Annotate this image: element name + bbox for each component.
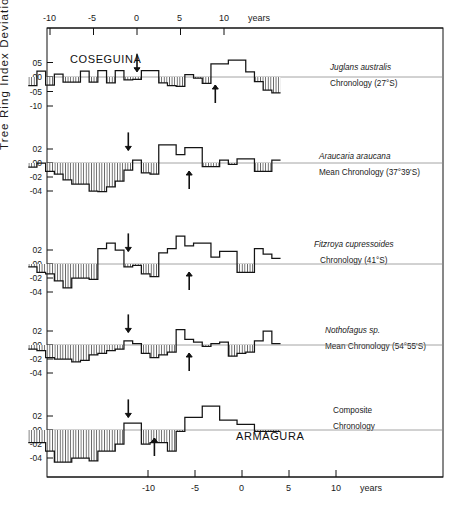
negative-bar [80, 264, 89, 278]
negative-bar [80, 345, 89, 360]
arrow-head-down-icon [125, 328, 131, 332]
negative-bar [28, 163, 37, 167]
arrow-head-down-icon [125, 413, 131, 417]
negative-bar [63, 163, 72, 180]
negative-bar [237, 264, 246, 272]
negative-bar [89, 264, 98, 279]
negative-bar [80, 163, 89, 184]
negative-bar [28, 345, 37, 349]
negative-bar [46, 163, 55, 171]
step-trace [28, 60, 280, 93]
arrow-head-up-icon [212, 85, 218, 89]
negative-bar [263, 77, 272, 90]
negative-bar [167, 430, 176, 451]
negative-bar [28, 430, 37, 443]
negative-bar [63, 430, 72, 462]
negative-bar [72, 163, 81, 184]
negative-bar [202, 77, 211, 83]
negative-bar [254, 163, 263, 171]
negative-bar [107, 430, 116, 451]
arrow-head-down-icon [125, 146, 131, 150]
negative-bar [159, 430, 168, 443]
arrow-head-up-icon [186, 353, 192, 357]
negative-bar [72, 430, 81, 458]
negative-bar [37, 264, 46, 272]
negative-bar [54, 430, 63, 462]
negative-bar [159, 345, 168, 355]
negative-bar [89, 345, 98, 355]
arrow-head-down-icon [134, 68, 140, 72]
negative-bar [46, 430, 55, 451]
negative-bar [54, 345, 63, 359]
negative-bar [237, 345, 246, 353]
negative-bar [89, 163, 98, 191]
negative-bar [115, 430, 124, 444]
figure-root: Tree Ring Index Deviation COSEGUINA ARMA… [0, 0, 458, 508]
negative-bar [107, 345, 116, 351]
negative-bar [150, 345, 159, 358]
negative-bar [46, 264, 55, 274]
negative-bar [63, 345, 72, 359]
negative-bar [72, 77, 81, 82]
panel-traces [28, 54, 443, 462]
negative-bar [107, 77, 116, 83]
negative-bar [107, 163, 116, 187]
negative-bar [141, 430, 150, 444]
negative-bar [141, 163, 150, 173]
negative-bar [72, 264, 81, 278]
negative-bar [176, 77, 185, 86]
negative-bar [167, 77, 176, 86]
panel-araucaria [28, 132, 443, 191]
negative-bar [46, 345, 55, 358]
negative-bar [98, 345, 107, 353]
arrow-head-up-icon [186, 272, 192, 276]
plot-canvas [0, 0, 458, 508]
negative-bar [37, 345, 46, 351]
negative-bar [115, 345, 124, 349]
negative-bar [246, 345, 255, 352]
negative-bar [98, 430, 107, 451]
negative-bar [159, 77, 168, 83]
negative-bar [89, 430, 98, 461]
negative-bar [72, 345, 81, 362]
negative-bar [228, 345, 237, 356]
panel-juglans [28, 54, 443, 106]
negative-bar [246, 264, 255, 272]
negative-bar [272, 77, 281, 93]
negative-bar [150, 163, 159, 174]
negative-bar [89, 77, 98, 82]
negative-bar [46, 77, 55, 85]
negative-bar [37, 430, 46, 443]
negative-bar [141, 264, 150, 274]
negative-bar [254, 77, 263, 82]
panel-fitzroya [28, 233, 443, 292]
panel-nothofagus [28, 314, 443, 373]
negative-bar [115, 163, 124, 181]
panel-composite [28, 399, 443, 462]
plot-frame [47, 28, 443, 477]
negative-bar [124, 163, 133, 170]
negative-bar [63, 77, 72, 82]
negative-bar [263, 163, 272, 171]
negative-bar [80, 430, 89, 458]
negative-bar [98, 163, 107, 192]
negative-bar [141, 345, 150, 353]
negative-bar [54, 163, 63, 174]
negative-bar [150, 264, 159, 277]
arrow-head-up-icon [186, 171, 192, 175]
negative-bar [63, 264, 72, 288]
negative-bar [54, 264, 63, 281]
negative-bar [28, 77, 37, 86]
arrow-head-down-icon [125, 247, 131, 251]
negative-bar [167, 345, 176, 352]
